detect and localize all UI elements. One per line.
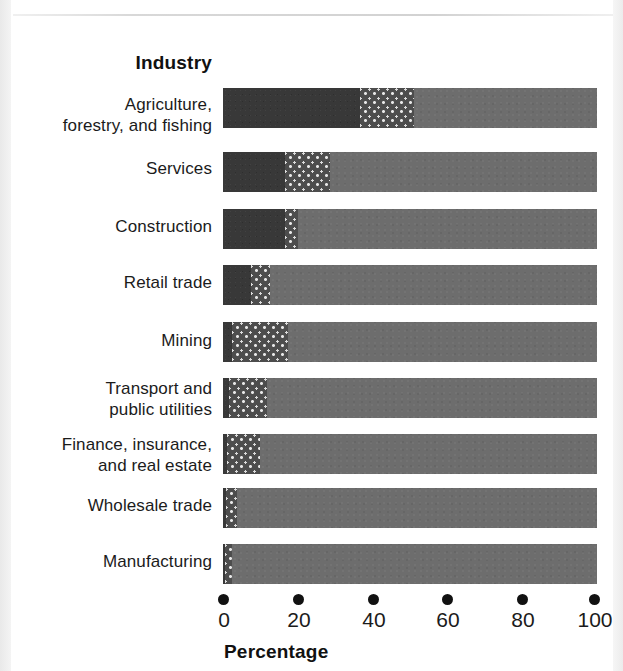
bar-segment-dotted (285, 152, 330, 192)
chart-page: Industry Agriculture, forestry, and fish… (0, 0, 623, 671)
bar-segment-dark (223, 88, 360, 128)
category-label-agriculture: Agriculture, forestry, and fishing (20, 94, 212, 136)
x-tick-marker-20 (293, 594, 304, 605)
bar-segment-light (288, 322, 597, 362)
x-tick-marker-80 (517, 594, 528, 605)
category-label-line1: Services (20, 158, 212, 179)
bar-retail-trade[interactable] (223, 265, 597, 305)
category-label-construction: Construction (20, 216, 212, 237)
bar-transport[interactable] (223, 378, 597, 418)
bar-segment-dark (223, 265, 251, 305)
bar-segment-dotted (226, 488, 237, 528)
bar-segment-dark (223, 152, 285, 192)
category-label-manufacturing: Manufacturing (20, 551, 212, 572)
x-tick-label-100: 100 (577, 608, 612, 632)
category-label-line1: Mining (20, 330, 212, 351)
bar-segment-dotted (225, 544, 232, 584)
x-tick-marker-100 (589, 594, 600, 605)
x-tick-marker-60 (442, 594, 453, 605)
bar-segment-dotted (229, 378, 267, 418)
x-tick-label-60: 60 (436, 608, 459, 632)
x-tick-marker-40 (368, 594, 379, 605)
bar-mining[interactable] (223, 322, 597, 362)
x-tick-label-40: 40 (362, 608, 385, 632)
bar-segment-light (414, 88, 597, 128)
x-tick-label-80: 80 (511, 608, 534, 632)
stacked-bar-chart: Industry Agriculture, forestry, and fish… (0, 0, 623, 671)
x-tick-label-0: 0 (218, 608, 230, 632)
bar-wholesale-trade[interactable] (223, 488, 597, 528)
bar-segment-dark (223, 322, 232, 362)
category-label-retail-trade: Retail trade (20, 272, 212, 293)
bar-segment-light (298, 209, 597, 249)
bar-construction[interactable] (223, 209, 597, 249)
bar-finance[interactable] (223, 434, 597, 474)
bar-segment-light (260, 434, 597, 474)
bar-segment-dark (223, 209, 285, 249)
x-tick-marker-0 (218, 594, 229, 605)
x-axis-title: Percentage (224, 641, 328, 663)
bar-agriculture[interactable] (223, 88, 597, 128)
category-label-line2: and real estate (20, 455, 212, 476)
bar-services[interactable] (223, 152, 597, 192)
bar-segment-dotted (227, 434, 260, 474)
category-label-line2: public utilities (20, 399, 212, 420)
category-label-line1: Construction (20, 216, 212, 237)
category-label-line2: forestry, and fishing (20, 115, 212, 136)
category-label-mining: Mining (20, 330, 212, 351)
bar-segment-light (237, 488, 597, 528)
category-label-services: Services (20, 158, 212, 179)
category-label-line1: Retail trade (20, 272, 212, 293)
category-label-wholesale-trade: Wholesale trade (20, 495, 212, 516)
x-tick-label-20: 20 (287, 608, 310, 632)
category-label-line1: Wholesale trade (20, 495, 212, 516)
bar-segment-dotted (360, 88, 414, 128)
category-label-line1: Manufacturing (20, 551, 212, 572)
bar-segment-dotted (251, 265, 270, 305)
category-label-line1: Agriculture, (20, 94, 212, 115)
industry-axis-title: Industry (30, 52, 212, 74)
bar-segment-dotted (285, 209, 298, 249)
bar-segment-light (330, 152, 597, 192)
category-label-transport: Transport and public utilities (20, 378, 212, 420)
bar-segment-dotted (232, 322, 288, 362)
category-label-finance: Finance, insurance, and real estate (20, 434, 212, 476)
bar-segment-light (267, 378, 597, 418)
bar-segment-light (232, 544, 597, 584)
bar-manufacturing[interactable] (223, 544, 597, 584)
bar-segment-light (270, 265, 597, 305)
category-label-line1: Finance, insurance, (20, 434, 212, 455)
category-label-line1: Transport and (20, 378, 212, 399)
